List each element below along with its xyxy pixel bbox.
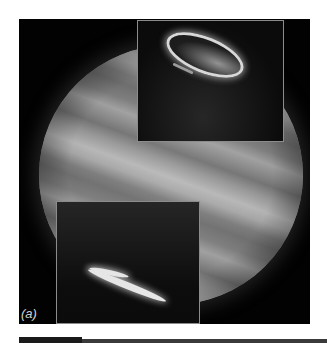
divider-accent bbox=[19, 337, 82, 343]
inset-background bbox=[57, 202, 199, 323]
jupiter-image: (a) bbox=[19, 19, 310, 324]
north-aurora-inset bbox=[137, 20, 284, 142]
figure-label: (a) bbox=[21, 306, 37, 321]
south-aurora-inset bbox=[56, 201, 200, 324]
